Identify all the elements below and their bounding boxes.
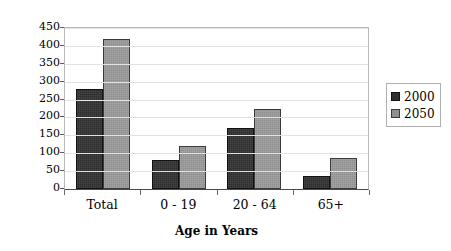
- y-axis-tick-label: 450: [26, 22, 60, 32]
- bar-chart: Millions of People 450400350300250200150…: [0, 0, 451, 251]
- y-axis-tick-label: 400: [26, 40, 60, 50]
- x-axis-tick-mark: [140, 190, 141, 195]
- gridline: [65, 135, 368, 136]
- gridline: [65, 171, 368, 172]
- bar-2000: [152, 160, 179, 189]
- bars-layer: [65, 28, 368, 189]
- y-axis-tick-labels: 450400350300250200150100500: [26, 22, 60, 190]
- x-axis-tick-mark: [293, 190, 294, 195]
- gridline: [65, 46, 368, 47]
- gridline: [65, 28, 368, 29]
- y-axis-tick-label: 200: [26, 111, 60, 121]
- legend-label: 2050: [404, 108, 435, 120]
- y-axis-tick-label: 0: [26, 183, 60, 193]
- legend-item-2000: 2000: [391, 88, 435, 105]
- x-axis-tick-marks: [64, 190, 369, 195]
- plot-area: [64, 27, 369, 190]
- y-axis-tick-label: 50: [26, 165, 60, 175]
- bar-2050: [254, 109, 281, 190]
- bar-2000: [76, 89, 103, 189]
- y-axis-tick-label: 350: [26, 58, 60, 68]
- x-axis-tick-mark: [64, 190, 65, 195]
- bar-group: [141, 28, 217, 189]
- gridline: [65, 64, 368, 65]
- x-axis-tick-label: 0 - 19: [140, 197, 216, 212]
- bar-group: [217, 28, 293, 189]
- bar-2000: [227, 128, 254, 189]
- bar-group: [65, 28, 141, 189]
- y-axis-tick-label: 100: [26, 147, 60, 157]
- y-axis-tick-label: 250: [26, 94, 60, 104]
- x-axis-tick-label: Total: [64, 197, 140, 212]
- gridline: [65, 153, 368, 154]
- y-axis-tick-label: 150: [26, 129, 60, 139]
- x-axis-title: Age in Years: [64, 224, 369, 238]
- x-axis-tick-label: 20 - 64: [217, 197, 293, 212]
- x-axis-tick-mark: [369, 190, 370, 195]
- x-axis-tick-label: 65+: [293, 197, 369, 212]
- gridline: [65, 100, 368, 101]
- legend-label: 2000: [404, 91, 435, 103]
- x-axis-tick-mark: [217, 190, 218, 195]
- chart-legend: 20002050: [386, 83, 441, 127]
- x-axis-tick-labels: Total0 - 1920 - 6465+: [64, 197, 369, 212]
- legend-item-2050: 2050: [391, 105, 435, 122]
- bar-2000: [303, 176, 330, 189]
- bar-2050: [103, 39, 130, 189]
- gridline: [65, 82, 368, 83]
- bar-group: [292, 28, 368, 189]
- bar-2050: [330, 158, 357, 189]
- legend-swatch-icon: [391, 109, 400, 118]
- y-axis-tick-label: 300: [26, 76, 60, 86]
- gridline: [65, 117, 368, 118]
- legend-swatch-icon: [391, 92, 400, 101]
